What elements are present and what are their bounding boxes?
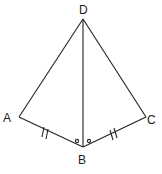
segment-DA	[19, 19, 83, 117]
kite-diagram: D A B C	[0, 0, 162, 174]
label-A: A	[3, 111, 11, 125]
angle-marker-DBC	[87, 139, 90, 142]
segment-DC	[83, 19, 146, 117]
segment-BC	[83, 117, 146, 147]
label-C: C	[147, 113, 156, 127]
label-D: D	[79, 3, 88, 17]
segment-AB	[19, 117, 83, 147]
diagram-svg: D A B C	[0, 0, 162, 174]
label-B: B	[78, 153, 86, 167]
tick-marks-BC	[110, 128, 117, 140]
angle-marker-ABD	[75, 139, 78, 142]
